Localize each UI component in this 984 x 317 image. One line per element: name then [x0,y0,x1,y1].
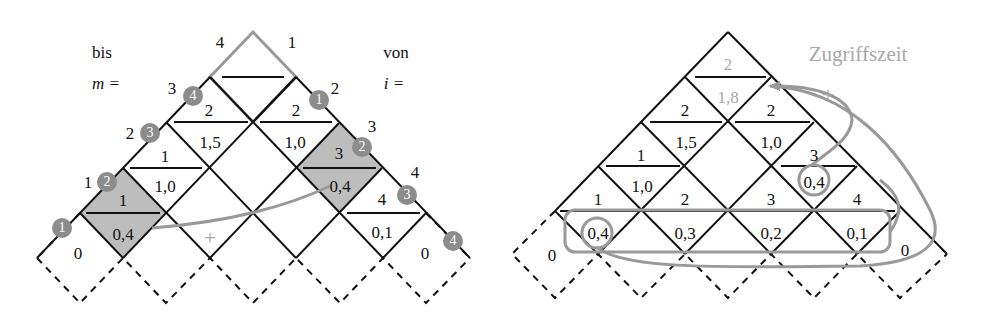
cell-value: 0,1 [371,224,392,241]
optimal-search-tree-diagram: bis m = von i = 1 2 3 4 1 2 3 4 1 2 3 4 … [0,0,984,317]
zero-right: 0 [421,245,430,262]
cell-value: 1 [594,191,603,208]
cell-value: 0,4 [587,225,608,242]
cell-value: 1 [637,147,646,164]
cell-value: 3 [767,191,776,208]
m-label-2: 2 [126,125,135,142]
m-label-1: 1 [84,174,93,191]
bis-label: bis [92,44,112,61]
connector-curve [152,186,330,228]
cell-value: 1,0 [154,178,175,195]
cell-value: 1,5 [675,134,696,151]
cell-value: 1,8 [717,89,738,106]
cell-value: 2 [205,102,214,119]
cell-value: 0,1 [846,225,867,242]
m-label-3: 3 [168,80,177,97]
bottom-row-highlight [565,210,890,252]
i-label-4: 4 [411,164,420,181]
left-badge-3: 3 [140,123,160,143]
cell-value: 1,0 [631,178,652,195]
left-badge-4: 4 [183,86,203,106]
cell-value: 0,4 [112,226,133,243]
cell-value: 1 [161,148,170,165]
cell-value: 3 [810,147,819,164]
cell-value: 1 [119,192,128,209]
cell-value: 4 [853,191,862,208]
zero-left: 0 [74,245,83,262]
m-label-4: 4 [216,34,225,51]
m-equals-label: m = [92,75,120,92]
cell-value: 2 [767,102,776,119]
cell-value: 2 [724,56,733,73]
i-equals-label: i = [384,75,404,92]
cell-value: 0,2 [760,225,781,242]
zugriffszeit-label: Zugriffszeit [809,44,908,65]
cell-value: 0,3 [674,225,695,242]
cell-value: 1,0 [760,134,781,151]
plus-sign: + [204,227,216,249]
von-label: von [383,44,409,61]
i-label-2: 2 [331,80,340,97]
cell-value: 1,0 [284,134,305,151]
cell-value: 1,5 [199,134,220,151]
left-badge-1: 1 [52,218,72,238]
arrowhead [768,81,780,91]
cell-value: 4 [378,191,387,208]
cell-value: 2 [681,191,690,208]
zero-left: 0 [548,247,557,264]
right-badge-1: 1 [309,90,329,110]
plus-sign: + [822,84,834,106]
left-badge-2: 2 [97,172,117,192]
cell-value: 0,4 [803,174,824,191]
right-badge-2: 2 [352,137,372,157]
i-label-1: 1 [288,34,297,51]
cell-value: 2 [292,102,301,119]
cell-value: 0,4 [329,178,350,195]
cell-value: 2 [681,102,690,119]
right-badge-4: 4 [443,231,463,251]
cell-value: 3 [335,145,344,162]
i-label-3: 3 [368,118,377,135]
zero-right: 0 [901,242,910,259]
right-badge-3: 3 [397,185,417,205]
